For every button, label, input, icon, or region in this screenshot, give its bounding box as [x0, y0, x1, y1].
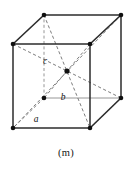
atom-back-top-right	[119, 13, 124, 18]
unit-cell-figure: c b a (m)	[0, 0, 132, 169]
atom-front-bottom-right	[88, 126, 93, 131]
figure-caption: (m)	[0, 147, 132, 158]
hidden-edge-back-bottom-left-to-front-bottom-left	[13, 98, 44, 128]
edge-bottom-right-depth	[90, 98, 121, 128]
atom-back-bottom-left	[42, 96, 47, 101]
edge-top-left-depth	[13, 15, 44, 44]
label-a: a	[34, 114, 39, 124]
bcc-unit-cell-diagram: c b a	[0, 0, 132, 145]
atom-front-top-right	[88, 42, 93, 47]
label-b: b	[61, 92, 66, 102]
atom-body-center	[64, 68, 69, 73]
atom-front-bottom-left	[11, 126, 16, 131]
atom-back-bottom-right	[119, 96, 124, 101]
label-c: c	[43, 56, 48, 66]
atom-back-top-left	[42, 13, 47, 18]
atom-front-top-left	[11, 42, 16, 47]
edge-top-right-depth	[90, 15, 121, 44]
